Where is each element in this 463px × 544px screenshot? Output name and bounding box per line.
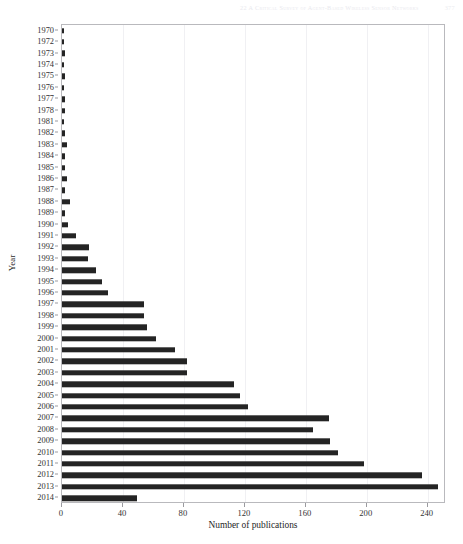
y-tick-label-1981: 1981	[37, 116, 54, 125]
bar-1985	[62, 165, 65, 170]
y-tick-mark-1991	[55, 234, 58, 235]
bar-row	[62, 493, 445, 503]
bar-1998	[62, 313, 144, 318]
bar-row	[62, 185, 445, 196]
bar-1976	[62, 85, 64, 90]
y-tick-mark-1975	[55, 75, 58, 76]
y-tick-mark-2008	[55, 428, 58, 429]
bar-row	[62, 322, 445, 333]
y-tick-mark-1997	[55, 303, 58, 304]
bar-row	[62, 344, 445, 355]
bar-1999	[62, 325, 147, 330]
running-header-page-number: 377	[445, 4, 455, 11]
bar-1993	[62, 256, 88, 261]
bar-row	[62, 299, 445, 310]
bar-1983	[62, 142, 67, 147]
y-tick-mark-2014	[55, 497, 58, 498]
bar-chart: 1970197219731974197519761977197819811982…	[0, 14, 463, 544]
bar-1991	[62, 233, 76, 238]
y-tick-mark-2002	[55, 360, 58, 361]
bar-2003	[62, 370, 187, 375]
bar-row	[62, 253, 445, 264]
y-tick-mark-1981	[55, 120, 58, 121]
y-tick-mark-1995	[55, 280, 58, 281]
y-tick-label-1975: 1975	[37, 71, 54, 80]
bar-2012	[62, 473, 422, 478]
y-tick-mark-1973	[55, 52, 58, 53]
y-tick-label-2000: 2000	[37, 333, 54, 342]
x-tick-label-80: 80	[179, 508, 188, 518]
y-tick-label-2011: 2011	[38, 459, 54, 468]
bar-1974	[62, 62, 64, 67]
y-tick-label-1994: 1994	[37, 265, 54, 274]
y-tick-mark-2003	[55, 371, 58, 372]
y-tick-mark-2013	[55, 485, 58, 486]
x-tick-label-200: 200	[359, 508, 372, 518]
bar-1997	[62, 302, 144, 307]
y-tick-label-2005: 2005	[37, 390, 54, 399]
y-tick-label-1989: 1989	[37, 208, 54, 217]
bar-2013	[62, 484, 438, 489]
y-tick-mark-1972	[55, 41, 58, 42]
y-tick-label-2007: 2007	[37, 413, 54, 422]
y-tick-mark-1983	[55, 143, 58, 144]
bar-1982	[62, 131, 65, 136]
bar-1988	[62, 199, 70, 204]
bar-row	[62, 36, 445, 47]
y-tick-label-1996: 1996	[37, 288, 54, 297]
x-tick-label-120: 120	[237, 508, 250, 518]
bar-1972	[62, 39, 64, 44]
y-tick-label-1984: 1984	[37, 151, 54, 160]
x-tick-mark-40	[122, 503, 123, 507]
y-tick-label-2008: 2008	[37, 424, 54, 433]
bar-1981	[62, 119, 64, 124]
y-tick-label-1986: 1986	[37, 173, 54, 182]
y-tick-mark-2000	[55, 337, 58, 338]
y-tick-label-1998: 1998	[37, 310, 54, 319]
bar-2004	[62, 382, 234, 387]
y-tick-label-1972: 1972	[37, 37, 54, 46]
y-tick-mark-1986	[55, 177, 58, 178]
y-tick-label-1977: 1977	[37, 94, 54, 103]
bar-row	[62, 276, 445, 287]
x-tick-label-0: 0	[59, 508, 63, 518]
y-tick-mark-2012	[55, 474, 58, 475]
bar-row	[62, 447, 445, 458]
x-axis-title: Number of publications	[61, 520, 445, 530]
y-tick-mark-1982	[55, 132, 58, 133]
bar-2001	[62, 347, 175, 352]
y-tick-label-1982: 1982	[37, 128, 54, 137]
y-tick-label-2010: 2010	[37, 447, 54, 456]
y-tick-label-2004: 2004	[37, 379, 54, 388]
bar-2005	[62, 393, 240, 398]
y-tick-mark-1970	[55, 29, 58, 30]
bar-1989	[62, 210, 65, 215]
y-tick-label-1995: 1995	[37, 276, 54, 285]
bar-row	[62, 71, 445, 82]
y-tick-label-1999: 1999	[37, 322, 54, 331]
y-tick-mark-1984	[55, 155, 58, 156]
y-tick-label-1974: 1974	[37, 59, 54, 68]
x-tick-mark-0	[61, 503, 62, 507]
x-tick-mark-160	[305, 503, 306, 507]
y-tick-mark-2001	[55, 349, 58, 350]
bar-2008	[62, 427, 313, 432]
x-tick-mark-120	[244, 503, 245, 507]
bar-row	[62, 379, 445, 390]
bar-row	[62, 173, 445, 184]
y-tick-label-2003: 2003	[37, 367, 54, 376]
bar-row	[62, 25, 445, 36]
bar-row	[62, 105, 445, 116]
y-tick-label-1973: 1973	[37, 48, 54, 57]
y-tick-label-2012: 2012	[37, 470, 54, 479]
bar-2006	[62, 404, 248, 409]
y-tick-label-2014: 2014	[37, 493, 54, 502]
y-tick-mark-1994	[55, 269, 58, 270]
y-tick-label-2001: 2001	[37, 345, 54, 354]
bar-1996	[62, 290, 108, 295]
bar-1986	[62, 176, 67, 181]
y-tick-mark-2004	[55, 383, 58, 384]
bar-1970	[62, 28, 64, 33]
bar-row	[62, 413, 445, 424]
y-tick-mark-1985	[55, 166, 58, 167]
